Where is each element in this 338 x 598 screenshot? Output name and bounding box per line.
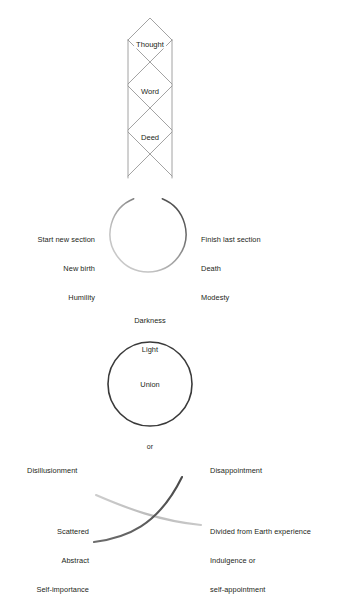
crossing-curves-group (94, 477, 201, 542)
disappointment-label: Disappointment (210, 466, 330, 476)
lattice-label-word: Word (139, 87, 161, 96)
darkness-light-text: Darkness Light (90, 297, 210, 374)
bottom-right-line-1: Divided from Earth experience (210, 527, 338, 537)
lattice-apex (128, 18, 172, 40)
union-circle-label: Union (140, 380, 159, 389)
bottom-left-line-2: Abstract (0, 556, 89, 566)
incomplete-circle-arc (110, 199, 186, 272)
open-circle-left-line-3: Humility (0, 293, 95, 303)
open-circle-left-line-1: Start new section (0, 235, 95, 245)
open-circle-right-labels: Finish last section Death Modesty (201, 216, 331, 322)
open-circle-group (110, 199, 186, 272)
lattice-label-deed: Deed (139, 133, 161, 142)
or-connector-text: or (130, 442, 170, 452)
bottom-left-labels: Scattered Abstract Self-importance (0, 508, 89, 598)
dark-ascending-curve (94, 477, 182, 542)
open-circle-left-labels: Start new section New birth Humility (0, 216, 95, 322)
bottom-right-labels: Divided from Earth experience Indulgence… (210, 508, 338, 598)
light-line: Light (90, 345, 210, 355)
open-circle-right-line-2: Death (201, 264, 331, 274)
bottom-left-line-3: Self-importance (0, 585, 89, 595)
bottom-right-line-2: Indulgence or (210, 556, 338, 566)
bottom-right-line-3: self-appointment (210, 585, 338, 595)
disillusionment-label: Disillusionment (27, 466, 137, 476)
open-circle-right-line-1: Finish last section (201, 235, 331, 245)
lattice-label-thought: Thought (134, 40, 166, 49)
bottom-left-line-1: Scattered (0, 527, 89, 537)
open-circle-left-line-2: New birth (0, 264, 95, 274)
darkness-line: Darkness (90, 316, 210, 326)
open-circle-right-line-3: Modesty (201, 293, 331, 303)
